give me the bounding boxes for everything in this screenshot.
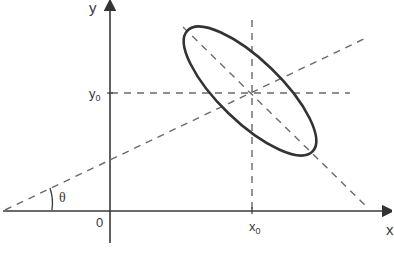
x0-label-sub: 0 (256, 226, 261, 236)
theta-label: θ (59, 191, 66, 205)
theta-arc (50, 188, 52, 210)
major-axis-dashed-line (183, 27, 368, 208)
x-axis-label: x (386, 222, 394, 237)
y0-label: y0 (89, 87, 101, 103)
x0-label: x0 (249, 220, 261, 236)
origin-label: 0 (96, 216, 103, 229)
y0-label-sub: 0 (96, 93, 101, 103)
ellipse (166, 8, 334, 173)
y-axis-label: y (89, 0, 97, 15)
